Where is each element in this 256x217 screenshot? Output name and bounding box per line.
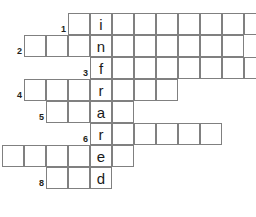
crossword-grid: i1n2f3r4a5r6ed8 [0, 0, 256, 217]
crossword-cell-empty[interactable] [178, 123, 200, 145]
clue-number-6: 6 [76, 135, 88, 144]
crossword-cell-empty[interactable] [200, 13, 222, 35]
crossword-cell-empty[interactable] [134, 13, 156, 35]
crossword-cell-letter-a[interactable]: a [90, 101, 112, 123]
crossword-cell-empty[interactable] [134, 35, 156, 57]
crossword-cell-empty[interactable] [178, 13, 200, 35]
crossword-cell-empty[interactable] [68, 167, 90, 189]
crossword-cell-empty[interactable] [46, 35, 68, 57]
crossword-cell-empty[interactable] [112, 123, 134, 145]
crossword-cell-empty[interactable] [156, 123, 178, 145]
crossword-cell-empty[interactable] [244, 13, 256, 35]
crossword-cell-empty[interactable] [222, 35, 244, 57]
crossword-cell-letter-r[interactable]: r [90, 123, 112, 145]
crossword-cell-letter-f[interactable]: f [90, 57, 112, 79]
crossword-cell-empty[interactable] [24, 35, 46, 57]
crossword-cell-empty[interactable] [68, 13, 90, 35]
crossword-cell-empty[interactable] [222, 13, 244, 35]
crossword-cell-empty[interactable] [68, 79, 90, 101]
crossword-cell-empty[interactable] [46, 145, 68, 167]
crossword-cell-letter-i[interactable]: i [90, 13, 112, 35]
crossword-cell-empty[interactable] [2, 145, 24, 167]
clue-number-1: 1 [54, 25, 66, 34]
crossword-cell-empty[interactable] [68, 145, 90, 167]
crossword-cell-letter-e[interactable]: e [90, 145, 112, 167]
crossword-cell-empty[interactable] [68, 101, 90, 123]
crossword-cell-empty[interactable] [134, 79, 156, 101]
crossword-cell-empty[interactable] [112, 101, 134, 123]
crossword-cell-empty[interactable] [178, 57, 200, 79]
clue-number-4: 4 [10, 91, 22, 100]
crossword-cell-empty[interactable] [156, 35, 178, 57]
clue-number-5: 5 [32, 113, 44, 122]
clue-number-2: 2 [10, 47, 22, 56]
crossword-cell-empty[interactable] [244, 57, 256, 79]
crossword-cell-empty[interactable] [200, 35, 222, 57]
crossword-cell-empty[interactable] [222, 57, 244, 79]
clue-number-3: 3 [76, 69, 88, 78]
crossword-cell-empty[interactable] [24, 145, 46, 167]
crossword-cell-empty[interactable] [24, 79, 46, 101]
crossword-cell-empty[interactable] [46, 79, 68, 101]
crossword-cell-empty[interactable] [156, 57, 178, 79]
crossword-cell-empty[interactable] [200, 123, 222, 145]
crossword-cell-letter-d[interactable]: d [90, 167, 112, 189]
crossword-cell-letter-r[interactable]: r [90, 79, 112, 101]
crossword-cell-empty[interactable] [46, 167, 68, 189]
crossword-cell-empty[interactable] [178, 35, 200, 57]
crossword-cell-empty[interactable] [156, 13, 178, 35]
clue-number-8: 8 [32, 179, 44, 188]
crossword-cell-empty[interactable] [200, 57, 222, 79]
crossword-cell-letter-n[interactable]: n [90, 35, 112, 57]
crossword-cell-empty[interactable] [112, 79, 134, 101]
crossword-cell-empty[interactable] [156, 79, 178, 101]
crossword-cell-empty[interactable] [112, 35, 134, 57]
crossword-cell-empty[interactable] [68, 35, 90, 57]
crossword-cell-empty[interactable] [134, 57, 156, 79]
crossword-cell-empty[interactable] [112, 145, 134, 167]
crossword-cell-empty[interactable] [112, 57, 134, 79]
crossword-cell-empty[interactable] [112, 13, 134, 35]
crossword-cell-empty[interactable] [134, 123, 156, 145]
crossword-cell-empty[interactable] [46, 101, 68, 123]
